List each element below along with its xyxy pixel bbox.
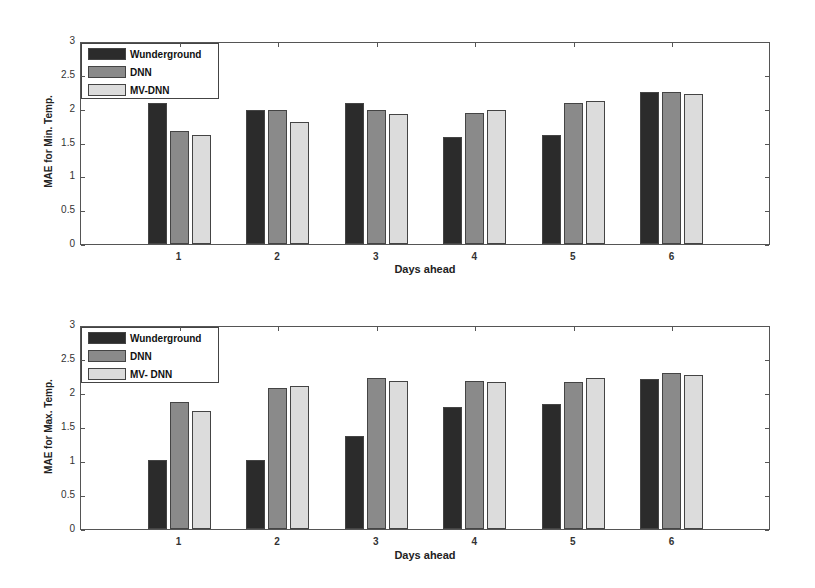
x-tick-label: 2 [267,536,287,547]
bar-mv-dnn-day-5 [586,378,605,529]
chart-min-temp: MAE for Min. Temp. Wunderground DNN MV-D… [0,0,815,294]
bar-mv-dnn-day-6 [684,375,703,529]
bar-dnn-day-1 [170,402,189,529]
y-tick-label: 2 [45,103,75,114]
bar-wunderground-day-6 [640,379,659,529]
x-tick [574,327,575,331]
bar-dnn-day-2 [268,110,287,244]
x-tick-label: 1 [169,251,189,262]
plot-area: Wunderground DNN MV- DNN [80,326,770,530]
y-tick [81,360,85,361]
bar-mv-dnn-day-1 [192,135,211,244]
x-tick [672,43,673,47]
x-axis-title: Days ahead [325,263,525,275]
x-tick-label: 2 [267,251,287,262]
bar-dnn-day-5 [564,103,583,244]
legend-label: Wunderground [130,49,201,60]
bar-wunderground-day-5 [542,135,561,244]
x-tick-label: 5 [563,251,583,262]
y-tick [81,326,85,327]
y-tick [81,42,85,43]
legend-label: DNN [130,67,152,78]
y-tick [765,462,769,463]
legend-label: DNN [130,351,152,362]
x-tick [475,43,476,47]
bar-wunderground-day-3 [345,436,364,529]
y-tick [765,42,769,43]
y-tick-label: 3 [45,35,75,46]
y-tick [765,110,769,111]
legend-label: MV- DNN [130,369,172,380]
y-tick-label: 0.5 [45,489,75,500]
x-tick-label: 3 [366,536,386,547]
x-axis-title: Days ahead [325,549,525,561]
y-tick [765,177,769,178]
y-tick-label: 1.5 [45,421,75,432]
y-tick-label: 0 [45,238,75,249]
y-tick [81,496,85,497]
bar-wunderground-day-6 [640,92,659,244]
y-tick-label: 0 [45,523,75,534]
x-tick [574,43,575,47]
y-tick [765,360,769,361]
bar-wunderground-day-1 [148,103,167,244]
y-tick [765,394,769,395]
legend-swatch-dnn [88,350,126,362]
bar-dnn-day-3 [367,110,386,244]
y-tick-label: 2.5 [45,69,75,80]
y-tick [81,177,85,178]
x-tick-label: 4 [464,536,484,547]
y-tick [765,76,769,77]
bar-mv-dnn-day-6 [684,94,703,244]
y-tick [765,428,769,429]
bar-mv-dnn-day-2 [290,122,309,244]
y-tick-label: 3 [45,319,75,330]
bar-mv-dnn-day-3 [389,114,408,244]
y-tick-label: 0.5 [45,204,75,215]
x-tick-label: 6 [661,251,681,262]
bar-wunderground-day-2 [246,110,265,244]
legend-label: MV-DNN [130,85,169,96]
bar-dnn-day-4 [465,113,484,244]
x-tick [180,43,181,47]
legend-swatch-dnn [88,66,126,78]
bar-dnn-day-5 [564,382,583,529]
y-tick [765,211,769,212]
legend-swatch-wunderground [88,332,126,344]
x-tick [672,327,673,331]
legend-swatch-mv-dnn [88,84,126,96]
y-tick [765,496,769,497]
y-tick [765,245,769,246]
bar-dnn-day-3 [367,378,386,529]
y-tick [81,530,85,531]
y-tick [81,245,85,246]
bar-mv-dnn-day-4 [487,382,506,529]
bar-mv-dnn-day-5 [586,101,605,244]
y-tick [765,326,769,327]
legend-swatch-mv-dnn [88,368,126,380]
y-tick [81,428,85,429]
bar-dnn-day-6 [662,92,681,244]
bar-wunderground-day-1 [148,460,167,529]
bar-mv-dnn-day-2 [290,386,309,529]
x-tick-label: 4 [464,251,484,262]
y-tick [81,110,85,111]
bar-dnn-day-4 [465,381,484,529]
y-tick [81,211,85,212]
bar-wunderground-day-5 [542,404,561,529]
y-tick-label: 1.5 [45,137,75,148]
x-tick-label: 5 [563,536,583,547]
y-tick [765,144,769,145]
y-tick [81,76,85,77]
bar-wunderground-day-3 [345,103,364,244]
y-tick-label: 1 [45,455,75,466]
y-tick [81,462,85,463]
x-tick [180,327,181,331]
legend: Wunderground DNN MV- DNN [81,327,219,383]
bar-dnn-day-2 [268,388,287,529]
bar-wunderground-day-4 [443,407,462,529]
y-tick [765,530,769,531]
plot-area: Wunderground DNN MV-DNN [80,42,770,245]
bar-mv-dnn-day-1 [192,411,211,529]
y-tick-label: 2 [45,387,75,398]
